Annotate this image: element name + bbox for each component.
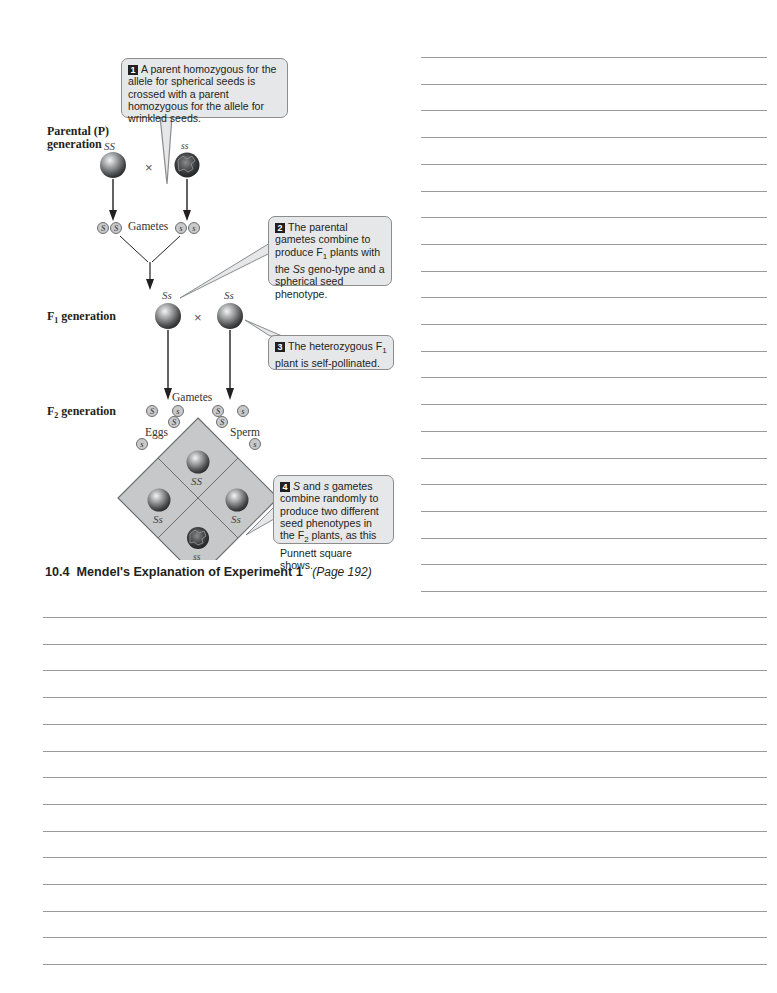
f1-generation-label: F1 generation: [47, 310, 116, 327]
note-line: [421, 324, 767, 325]
gamete-s: s: [188, 222, 200, 234]
note-line: [421, 511, 767, 512]
step-number-2: 2: [275, 223, 285, 233]
gamete-s: s: [175, 222, 187, 234]
note-line: [421, 431, 767, 432]
callout-3: 3The heterozygous F1 plant is self-polli…: [268, 335, 394, 370]
note-line: [43, 777, 767, 778]
punnett-cell-left: Ss: [153, 513, 163, 525]
note-line: [421, 84, 767, 85]
section-title: Mendel's Explanation of Experiment 1: [77, 565, 303, 579]
note-line: [43, 751, 767, 752]
note-line: [421, 404, 767, 405]
note-line: [421, 271, 767, 272]
page-reference: (Page 192): [312, 565, 371, 579]
note-line: [421, 538, 767, 539]
callout-3-text-a: The heterozygous F: [288, 340, 382, 352]
note-line: [43, 964, 767, 965]
note-line: [421, 191, 767, 192]
note-line: [421, 484, 767, 485]
note-line: [421, 591, 767, 592]
section-number: 10.4: [45, 565, 70, 579]
note-line: [43, 644, 767, 645]
note-line: [421, 564, 767, 565]
note-line: [43, 857, 767, 858]
note-line: [43, 884, 767, 885]
f1-label-rest: generation: [58, 309, 116, 323]
f1-gamete: S: [146, 405, 158, 417]
sperm-allele-S: S: [216, 416, 228, 428]
punnett-right-seed-icon: [226, 489, 249, 512]
sperm-label: Sperm: [230, 426, 260, 438]
step-number-1: 1: [128, 65, 138, 75]
note-line: [421, 164, 767, 165]
callout-1: 1A parent homozygous for the allele for …: [121, 58, 288, 118]
f1-left-genotype: Ss: [162, 289, 172, 301]
f1-right-genotype: Ss: [224, 289, 234, 301]
callout-4: 4S and s gametes combine randomly to pro…: [273, 475, 394, 544]
note-line: [421, 377, 767, 378]
egg-allele-S: S: [168, 416, 180, 428]
f1-gametes-label: Gametes: [172, 391, 212, 403]
parent-left-genotype: SS: [104, 140, 115, 152]
f2-label-rest: generation: [58, 404, 116, 418]
note-line: [43, 724, 767, 725]
note-line: [421, 57, 767, 58]
note-line: [421, 137, 767, 138]
callout-1-text: A parent homozygous for the allele for s…: [128, 63, 276, 124]
punnett-cell-bottom: ss: [193, 552, 200, 562]
gamete-S: S: [97, 222, 109, 234]
f2-generation-label: F2 generation: [47, 405, 116, 422]
step-number-3: 3: [275, 342, 285, 352]
note-line: [43, 911, 767, 912]
f1-cross-symbol: ×: [194, 310, 202, 325]
f1-seed-right-icon: [217, 303, 243, 329]
punnett-wrinkled-seed-icon: [187, 527, 209, 549]
parental-cross-symbol: ×: [145, 160, 153, 175]
callout-3-text-b: plant is self-pollinated.: [275, 357, 380, 369]
note-line: [43, 831, 767, 832]
punnett-cell-top: SS: [191, 475, 202, 487]
note-line: [43, 804, 767, 805]
parental-gametes-label: Gametes: [128, 220, 168, 232]
note-line: [43, 670, 767, 671]
note-line: [421, 351, 767, 352]
section-heading: 10.4 Mendel's Explanation of Experiment …: [45, 565, 372, 579]
punnett-cell-right: Ss: [231, 513, 241, 525]
parental-label-line2: generation: [47, 138, 109, 151]
spherical-seed-icon: [100, 152, 126, 178]
sperm-allele-s: s: [249, 438, 261, 450]
parental-generation-label: Parental (P) generation: [47, 125, 109, 151]
gamete-S: S: [110, 222, 122, 234]
punnett-ss-top-seed-icon: [187, 451, 210, 474]
note-line: [43, 697, 767, 698]
egg-allele-s: s: [136, 438, 148, 450]
note-line: [421, 458, 767, 459]
parent-right-genotype: ss: [181, 141, 188, 151]
note-line: [421, 110, 767, 111]
punnett-left-seed-icon: [148, 489, 171, 512]
wrinkled-seed-icon: [175, 153, 200, 178]
callout-2-italic: Ss: [293, 263, 305, 275]
f1-seed-left-icon: [155, 303, 181, 329]
f1-gamete: s: [237, 405, 249, 417]
eggs-label: Eggs: [145, 426, 168, 438]
note-line: [421, 217, 767, 218]
note-line: [43, 937, 767, 938]
note-line: [421, 244, 767, 245]
step-number-4: 4: [280, 482, 290, 492]
note-line: [421, 297, 767, 298]
callout-4-text-a: and: [300, 480, 324, 492]
callout-3-sub: 1: [382, 346, 386, 355]
callout-2: 2The parental gametes combine to produce…: [268, 216, 392, 286]
note-line: [43, 617, 767, 618]
